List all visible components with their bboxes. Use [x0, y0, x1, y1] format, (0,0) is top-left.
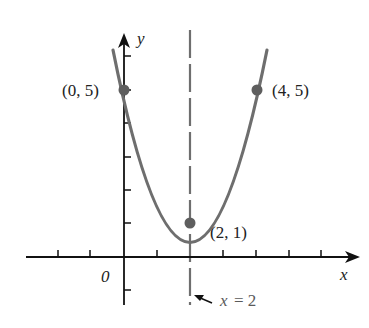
annotation-arrow-icon [194, 295, 204, 301]
point-0-5 [119, 85, 130, 96]
point-2-1 [185, 218, 196, 229]
y-axis-label: y [135, 29, 145, 48]
origin-label: 0 [101, 267, 110, 286]
point-4-5 [252, 85, 263, 96]
point-label-4-5: (4, 5) [272, 81, 309, 100]
point-label-0-5: (0, 5) [62, 81, 99, 100]
axis-of-symmetry-annotation: x = 2 [194, 291, 256, 310]
y-axis [118, 33, 131, 305]
axis-of-symmetry-var: x [219, 291, 228, 310]
parabola-chart: y x 0 (0, 5) (2, 1) (4, 5) x = 2 [0, 0, 369, 328]
x-axis [26, 250, 360, 263]
axis-of-symmetry-eq: = 2 [234, 291, 256, 310]
point-label-2-1: (2, 1) [210, 223, 247, 242]
x-axis-label: x [339, 265, 348, 284]
